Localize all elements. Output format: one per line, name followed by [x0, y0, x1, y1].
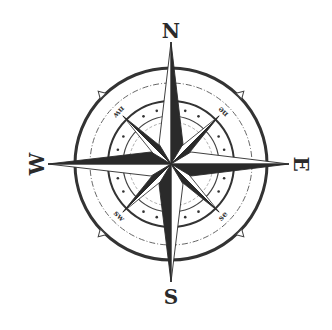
- label-east: E: [289, 156, 313, 171]
- ring-dot: [197, 210, 200, 213]
- ring-dot: [155, 216, 158, 219]
- triangle-marker-nw: [95, 88, 106, 99]
- triangle-marker-se: [236, 229, 247, 240]
- ring-dot: [197, 115, 200, 118]
- ring-dot: [184, 110, 187, 113]
- triangle-marker-sw: [95, 229, 106, 240]
- ring-dot: [223, 148, 226, 151]
- ring-dot: [155, 110, 158, 113]
- ring-dot: [122, 135, 125, 138]
- label-south: S: [164, 285, 178, 309]
- ring-dot: [223, 177, 226, 180]
- ring-dot: [142, 115, 145, 118]
- ring-dot: [117, 177, 120, 180]
- ring-dot: [117, 148, 120, 151]
- label-west: W: [25, 152, 49, 176]
- ring-dot: [122, 190, 125, 193]
- label-north: N: [162, 19, 180, 43]
- ring-dot: [142, 210, 145, 213]
- ring-dot: [217, 135, 220, 138]
- cardinal-points: [48, 42, 289, 282]
- compass-rose: N E S W ne se sw nw: [0, 0, 332, 330]
- triangle-marker-ne: [236, 88, 247, 99]
- ring-dot: [217, 190, 220, 193]
- ring-dot: [184, 216, 187, 219]
